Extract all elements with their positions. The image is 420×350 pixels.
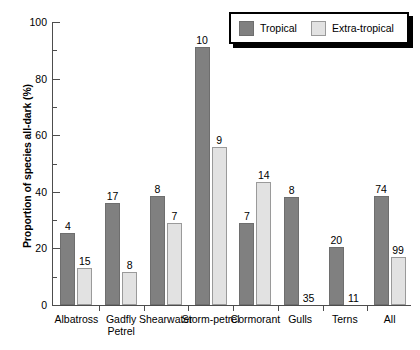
y-tick-minor <box>53 50 57 51</box>
bar-terns-tropical: 20 <box>329 247 344 305</box>
y-tick-major <box>53 79 60 80</box>
y-tick-major <box>53 22 60 23</box>
legend-label-extra-tropical: Extra-tropical <box>332 22 394 34</box>
bar-storm-petrel-tropical: 10 <box>195 47 210 305</box>
plot-area: 020406080100415Albatross178GadflyPetrel8… <box>52 22 410 305</box>
y-tick-label: 0 <box>41 299 47 311</box>
legend-item-extra-tropical: Extra-tropical <box>311 21 394 36</box>
bar-gadfly-petrel-extra: 8 <box>122 272 137 305</box>
bar-sample-size-label: 8 <box>127 259 133 271</box>
x-category-label: Cormorant <box>231 313 281 325</box>
x-axis-line <box>52 305 411 306</box>
x-tick <box>278 306 279 311</box>
y-tick-minor <box>53 107 57 108</box>
bar-sample-size-label: 7 <box>244 210 250 222</box>
x-category-label-line: Gadfly <box>106 313 136 325</box>
bar-sample-size-label: 4 <box>65 220 71 232</box>
x-category-label-line: Terns <box>332 313 358 325</box>
bar-sample-size-label: 8 <box>154 183 160 195</box>
bar-sample-size-label: 10 <box>196 34 208 46</box>
y-tick-major <box>53 192 60 193</box>
x-category-label-line: Cormorant <box>231 313 281 325</box>
y-tick-label: 80 <box>35 73 47 85</box>
y-tick-label: 20 <box>35 242 47 254</box>
y-tick-major <box>53 248 60 249</box>
x-category-label: All <box>384 313 396 325</box>
y-tick-minor <box>53 220 57 221</box>
bar-sample-size-label: 14 <box>258 169 270 181</box>
y-tick-major <box>53 135 60 136</box>
bar-sample-size-label: 17 <box>107 190 119 202</box>
x-category-label-line: All <box>384 313 396 325</box>
y-tick-label: 100 <box>29 16 47 28</box>
bar-storm-petrel-extra: 9 <box>212 147 227 305</box>
bar-cormorant-tropical: 7 <box>239 223 254 305</box>
y-tick-label: 60 <box>35 129 47 141</box>
x-category-label: GadflyPetrel <box>106 313 136 337</box>
y-tick-minor <box>53 164 57 165</box>
legend-item-tropical: Tropical <box>239 21 297 36</box>
bar-sample-size-label: 74 <box>375 183 387 195</box>
x-category-label-line: Petrel <box>106 325 136 337</box>
legend: Tropical Extra-tropical <box>229 12 409 44</box>
bar-albatross-tropical: 4 <box>60 233 75 305</box>
x-category-label: Terns <box>332 313 358 325</box>
bar-chart-figure: Proportion of species all-dark (%) 02040… <box>0 0 420 350</box>
bar-cormorant-extra: 14 <box>256 182 271 305</box>
x-tick <box>233 306 234 311</box>
bar-sample-size-label: 7 <box>171 210 177 222</box>
x-category-label-line: Gulls <box>288 313 312 325</box>
y-tick-minor <box>53 277 57 278</box>
y-tick-label: 40 <box>35 186 47 198</box>
x-tick <box>144 306 145 311</box>
bar-shearwater-extra: 7 <box>167 223 182 305</box>
bar-sample-size-label: 20 <box>331 234 343 246</box>
legend-swatch-extra-tropical <box>311 21 326 36</box>
bar-sample-size-label: 15 <box>79 255 91 267</box>
x-tick <box>188 306 189 311</box>
legend-label-tropical: Tropical <box>260 22 297 34</box>
bar-all-extra: 99 <box>391 257 406 305</box>
bar-shearwater-tropical: 8 <box>150 196 165 305</box>
x-tick <box>99 306 100 311</box>
bar-sample-size-label: 8 <box>289 184 295 196</box>
x-tick <box>367 306 368 311</box>
legend-swatch-tropical <box>239 21 254 36</box>
bar-all-tropical: 74 <box>374 196 389 305</box>
bar-sample-size-label: 9 <box>216 134 222 146</box>
y-axis-title: Proportion of species all-dark (%) <box>21 51 33 281</box>
x-category-label: Albatross <box>54 313 98 325</box>
zero-bar-sample-size-label: 11 <box>348 292 359 304</box>
y-tick-major <box>53 305 60 306</box>
bar-gadfly-petrel-tropical: 17 <box>105 203 120 305</box>
zero-bar-sample-size-label: 35 <box>303 292 315 304</box>
x-tick <box>323 306 324 311</box>
x-category-label-line: Albatross <box>54 313 98 325</box>
x-category-label: Gulls <box>288 313 312 325</box>
bar-sample-size-label: 99 <box>392 244 404 256</box>
bar-albatross-extra: 15 <box>77 268 92 305</box>
bar-gulls-tropical: 8 <box>284 197 299 305</box>
